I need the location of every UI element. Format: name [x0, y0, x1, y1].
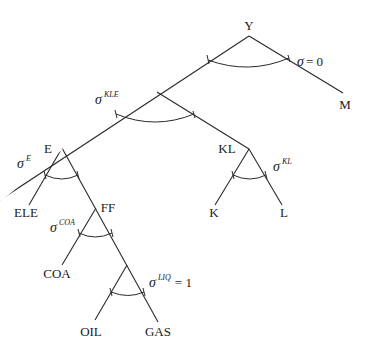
node-gas: GAS: [145, 324, 171, 339]
arc-coa: [79, 233, 112, 237]
production-tree-diagram: Y M E KL ELE FF K L COA OIL GAS σ= 0 σKL…: [0, 0, 366, 358]
node-e: E: [44, 141, 52, 156]
arc-kle: [116, 114, 194, 122]
node-ele: ELE: [14, 205, 38, 220]
node-l: L: [280, 205, 288, 220]
edge-y-kle: [0, 36, 249, 200]
arc-liq: [111, 292, 144, 296]
node-coa: COA: [43, 266, 71, 281]
node-oil: OIL: [80, 324, 102, 339]
arc-kl: [233, 175, 266, 179]
node-ff: FF: [101, 200, 115, 215]
mask: [0, 148, 62, 200]
sigma-kle-label: σKLE: [95, 90, 119, 107]
arc-e: [45, 175, 78, 179]
node-k: K: [209, 205, 219, 220]
sigma-coa-label: σCOA: [50, 218, 75, 235]
sigma-e-label: σE: [17, 154, 31, 171]
edge-kl-k: [215, 149, 249, 205]
node-m: M: [339, 97, 351, 112]
arc-top: [208, 58, 289, 67]
node-kl: KL: [218, 141, 235, 156]
sigma-liq-label: σLIQ= 1: [149, 273, 192, 290]
edge-y-m: [249, 36, 343, 93]
node-y: Y: [244, 18, 254, 33]
sigma-top-label: σ= 0: [297, 54, 323, 69]
elasticity-arcs: [44, 55, 290, 296]
elasticity-labels: σ= 0 σKLE σE σKL σCOA σLIQ= 1: [17, 54, 323, 290]
edge-e-ff: [62, 148, 158, 322]
sigma-kl-label: σKL: [273, 157, 292, 174]
edge-kl-l: [249, 149, 282, 205]
